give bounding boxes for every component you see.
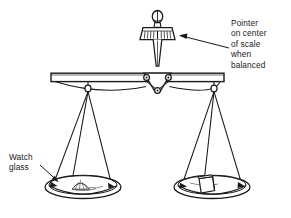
pointer-callout-line-1: Pointer — [231, 18, 267, 28]
watch-glass-callout-leader — [40, 165, 59, 182]
left-hanger-ring — [85, 85, 91, 92]
pointer-assembly — [140, 11, 175, 67]
watch-glass-callout-line-1: Watch — [9, 152, 33, 162]
pointer-callout-line-2: on center — [231, 28, 267, 38]
right-watch-glass — [174, 175, 250, 199]
pointer-callout: Pointer on center of scale when balanced — [231, 18, 267, 70]
right-hanger-ring — [211, 85, 217, 92]
pointer-scale-icon — [140, 28, 175, 40]
pointer-callout-line-4: when — [231, 49, 267, 59]
pointer-callout-arrowhead — [179, 34, 188, 39]
left-cord-1 — [54, 92, 89, 184]
pointer-callout-leader — [179, 34, 229, 48]
balance-diagram: Pointer on center of scale when balanced… — [0, 0, 291, 218]
pointer-callout-line-3: of scale — [231, 39, 267, 49]
pointer-knob-icon — [152, 11, 162, 23]
pointer-neck — [154, 23, 161, 28]
left-cord-3 — [88, 92, 112, 186]
watch-glass-callout-line-2: glass — [9, 162, 33, 172]
pointer-callout-line-5: balanced — [231, 60, 267, 70]
watch-glass-callout: Watch glass — [9, 152, 33, 173]
beam-underside-left — [55, 82, 146, 91]
balance-beam — [51, 73, 224, 90]
right-cord-3 — [214, 92, 242, 185]
fulcrum-block — [144, 73, 172, 93]
